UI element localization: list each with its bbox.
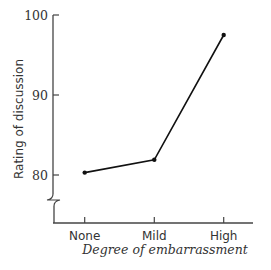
y-tick-label: 100 — [24, 8, 48, 23]
y-tick-label: 90 — [32, 88, 48, 103]
x-axis-title: Degree of embarrassment — [81, 242, 249, 257]
x-tick-label: None — [69, 229, 100, 243]
x-axis: NoneMildHigh Degree of embarrassment — [53, 217, 253, 257]
x-tick-label: High — [210, 229, 238, 243]
data-series — [83, 33, 226, 175]
data-point — [83, 170, 87, 174]
data-point — [152, 158, 156, 162]
y-axis-title: Rating of discussion — [12, 59, 26, 179]
y-tick-label: 80 — [32, 168, 48, 183]
data-point — [222, 33, 226, 37]
line-chart: 8090100 Rating of discussion NoneMildHig… — [0, 0, 271, 270]
x-tick-label: Mild — [142, 229, 167, 243]
y-axis: 8090100 Rating of discussion — [12, 8, 60, 224]
axis-break-icon — [47, 194, 60, 206]
series-line — [85, 35, 224, 173]
